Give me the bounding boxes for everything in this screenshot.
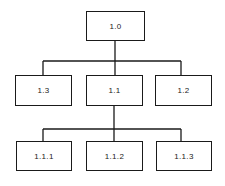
node-1-3: 1.3: [15, 75, 72, 106]
node-label: 1.1: [108, 86, 120, 95]
node-1-1-2: 1.1.2: [86, 141, 143, 171]
node-1-1: 1.1: [86, 75, 143, 106]
node-label: 1.3: [37, 86, 49, 95]
node-1-1-3: 1.1.3: [156, 141, 212, 171]
node-1-2: 1.2: [155, 75, 212, 106]
node-label: 1.2: [177, 86, 189, 95]
node-label: 1.0: [109, 22, 121, 31]
node-label: 1.1.1: [34, 152, 53, 161]
node-1-0: 1.0: [86, 11, 145, 41]
node-label: 1.1.3: [174, 152, 193, 161]
node-label: 1.1.2: [105, 152, 124, 161]
node-1-1-1: 1.1.1: [16, 141, 72, 171]
